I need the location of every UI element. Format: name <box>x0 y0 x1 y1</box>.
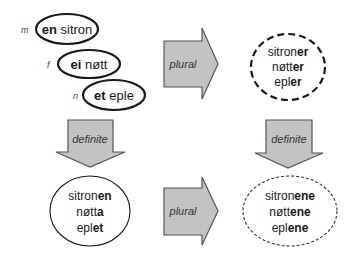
word-en-sitron: en sitron <box>42 22 93 37</box>
indefinite-singular-group: m en sitron f ei nøtt n et eple <box>21 14 145 110</box>
word-ei-nott: ei nøtt <box>71 57 108 72</box>
indefinite-plural-group: sitroner nøtter epler <box>251 34 325 100</box>
word-sitronene: sitronene <box>265 189 315 203</box>
definite-arrow-left: definite <box>56 120 125 167</box>
word-epler: epler <box>274 75 302 89</box>
definite-plural-group: sitronene nøttene eplene <box>243 176 337 246</box>
gender-label-neuter: n <box>73 91 78 101</box>
definite-singular-group: sitronen nøtta eplet <box>50 176 130 246</box>
gender-label-masculine: m <box>21 25 29 35</box>
gender-label-feminine: f <box>47 60 51 70</box>
word-nottene: nøttene <box>269 205 311 219</box>
plural-arrow-bottom: plural <box>164 177 218 245</box>
plural-arrow-top: plural <box>164 28 218 99</box>
word-sitronen: sitronen <box>68 189 111 203</box>
word-notter: nøtter <box>272 60 304 74</box>
definite-arrow-right: definite <box>255 120 323 168</box>
plural-label-bottom: plural <box>169 205 197 217</box>
word-et-eple: et eple <box>94 88 134 103</box>
definite-label-right: definite <box>271 133 306 145</box>
definite-label-left: definite <box>72 133 107 145</box>
word-notta: nøtta <box>76 205 104 219</box>
word-sitroner: sitroner <box>268 45 309 59</box>
word-eplene: eplene <box>272 221 309 235</box>
plural-label-top: plural <box>169 58 197 70</box>
noun-inflection-diagram: m en sitron f ei nøtt n et eple plural s… <box>0 0 354 262</box>
word-eplet: eplet <box>77 221 104 235</box>
